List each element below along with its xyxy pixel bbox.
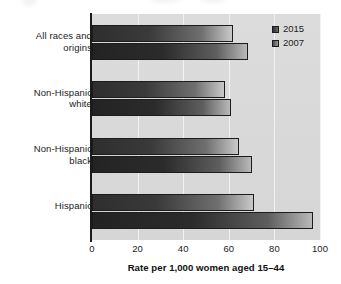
x-axis-title: Rate per 1,000 women aged 15–44	[92, 262, 320, 273]
scan-artifact	[200, 0, 226, 3]
bar-2015	[92, 138, 239, 155]
x-axis-tick-label: 20	[132, 243, 143, 254]
category-label: Non-Hispanic white	[34, 87, 92, 110]
legend-label-2007: 2007	[283, 38, 304, 48]
legend-label-2015: 2015	[283, 24, 304, 34]
category-label: Hispanic	[55, 200, 92, 212]
x-axis-tick-label: 60	[223, 243, 234, 254]
x-axis-tick-label: 40	[178, 243, 189, 254]
bar-2007	[92, 212, 313, 229]
x-axis-tick-label: 0	[89, 243, 94, 254]
bar-2015	[92, 81, 225, 98]
gridline	[320, 14, 321, 240]
legend-swatch-2015-icon	[272, 26, 279, 33]
bar-2007	[92, 99, 231, 116]
bar-2015	[92, 194, 254, 211]
chart-legend: 2015 2007	[272, 24, 304, 52]
scan-artifact	[21, 0, 39, 8]
bar-2007	[92, 156, 252, 173]
x-axis-tick-label: 100	[312, 243, 328, 254]
legend-item-2015: 2015	[272, 24, 304, 34]
bar-2007	[92, 43, 248, 60]
scan-artifact	[150, 0, 180, 3]
bar-2015	[92, 25, 233, 42]
legend-swatch-2007-icon	[272, 40, 279, 47]
category-label: All races and origins	[36, 30, 92, 53]
x-axis-tick-label: 80	[269, 243, 280, 254]
bar-chart: Rate per 1,000 women aged 15–44 2015 200…	[0, 0, 341, 284]
category-label: Non-Hispanic black	[34, 143, 92, 166]
legend-item-2007: 2007	[272, 38, 304, 48]
